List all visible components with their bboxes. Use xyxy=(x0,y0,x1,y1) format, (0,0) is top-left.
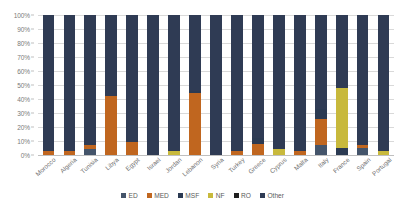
bar-column[interactable] xyxy=(210,15,222,155)
legend-swatch-icon xyxy=(234,193,239,198)
bar-segment[interactable] xyxy=(168,15,180,151)
bar-segment[interactable] xyxy=(231,15,243,151)
x-axis-label: Algeria xyxy=(59,156,78,174)
bar-segment[interactable] xyxy=(336,148,348,155)
bar-stack xyxy=(357,15,369,155)
bar-segment[interactable] xyxy=(273,15,285,149)
bar-segment[interactable] xyxy=(378,151,390,155)
bar-segment[interactable] xyxy=(64,151,76,155)
bar-segment[interactable] xyxy=(252,15,264,138)
bar-segment[interactable] xyxy=(294,15,306,151)
y-axis-tick-label: 10% xyxy=(17,138,30,145)
bar-segment[interactable] xyxy=(294,151,306,155)
bar-segment[interactable] xyxy=(168,151,180,155)
x-axis-label: Egypt xyxy=(124,156,141,172)
bar-segment[interactable] xyxy=(64,15,76,151)
bar-column[interactable] xyxy=(252,15,264,155)
bar-segment[interactable] xyxy=(273,149,285,155)
legend-item[interactable]: MED xyxy=(147,192,169,199)
bar-column[interactable] xyxy=(378,15,390,155)
bar-stack xyxy=(43,15,55,155)
y-axis-tick-mark xyxy=(31,141,34,142)
x-axis-label: Libya xyxy=(104,156,120,171)
bar-segment[interactable] xyxy=(105,15,117,96)
bar-column[interactable] xyxy=(43,15,55,155)
bar-column[interactable] xyxy=(105,15,117,155)
x-axis-label: Cyprus xyxy=(268,156,288,175)
legend-label: RO xyxy=(241,192,251,199)
x-axis-label: Turkey xyxy=(227,156,246,174)
bar-column[interactable] xyxy=(273,15,285,155)
bar-segment[interactable] xyxy=(231,151,243,155)
y-axis: 0%10%20%30%40%50%60%70%80%90%100% xyxy=(0,15,34,155)
legend-swatch-icon xyxy=(121,193,126,198)
y-axis-tick-label: 0% xyxy=(21,152,30,159)
legend-item[interactable]: Other xyxy=(260,192,284,199)
legend-item[interactable]: NF xyxy=(208,192,224,199)
bar-segment[interactable] xyxy=(357,15,369,145)
y-axis-tick-mark xyxy=(31,29,34,30)
bar-segment[interactable] xyxy=(210,15,222,155)
bar-segment[interactable] xyxy=(84,145,96,149)
bar-segment[interactable] xyxy=(315,145,327,155)
bar-stack xyxy=(105,15,117,155)
x-axis-label: Portugal xyxy=(370,156,392,177)
bar-column[interactable] xyxy=(294,15,306,155)
x-axis-label: Italy xyxy=(316,156,329,169)
bar-segment[interactable] xyxy=(336,88,348,148)
bar-segment[interactable] xyxy=(336,15,348,88)
bar-segment[interactable] xyxy=(189,15,201,91)
legend-swatch-icon xyxy=(260,193,265,198)
bar-segment[interactable] xyxy=(315,119,327,146)
y-axis-tick-label: 50% xyxy=(17,82,30,89)
bar-stack xyxy=(231,15,243,155)
bar-segment[interactable] xyxy=(252,138,264,144)
bar-segment[interactable] xyxy=(43,151,55,155)
legend-item[interactable]: RO xyxy=(234,192,251,199)
bar-column[interactable] xyxy=(357,15,369,155)
bar-segment[interactable] xyxy=(357,145,369,148)
bar-segment[interactable] xyxy=(189,91,201,94)
bar-column[interactable] xyxy=(231,15,243,155)
bar-segment[interactable] xyxy=(126,15,138,142)
bar-segment[interactable] xyxy=(147,15,159,155)
bar-segment[interactable] xyxy=(252,144,264,155)
plot-area xyxy=(38,15,394,155)
bar-stack xyxy=(273,15,285,155)
bar-column[interactable] xyxy=(64,15,76,155)
bar-segment[interactable] xyxy=(315,15,327,109)
y-axis-tick-mark xyxy=(31,85,34,86)
bar-segment[interactable] xyxy=(105,96,117,155)
y-axis-tick-mark xyxy=(31,15,34,16)
bar-segment[interactable] xyxy=(43,15,55,151)
bar-segment[interactable] xyxy=(378,15,390,151)
bar-stack xyxy=(336,15,348,155)
legend-label: MED xyxy=(154,192,169,199)
y-axis-tick-mark xyxy=(31,99,34,100)
y-axis-tick-label: 60% xyxy=(17,68,30,75)
bar-segment[interactable] xyxy=(126,142,138,155)
bar-segment[interactable] xyxy=(84,15,96,145)
y-axis-tick-label: 40% xyxy=(17,96,30,103)
bar-column[interactable] xyxy=(336,15,348,155)
bar-column[interactable] xyxy=(84,15,96,155)
bar-column[interactable] xyxy=(147,15,159,155)
legend-item[interactable]: MSF xyxy=(178,192,199,199)
bar-column[interactable] xyxy=(168,15,180,155)
legend-label: Other xyxy=(267,192,284,199)
bar-segment[interactable] xyxy=(189,93,201,155)
y-axis-tick-mark xyxy=(31,57,34,58)
x-axis-label: Israel xyxy=(146,156,162,172)
bar-segment[interactable] xyxy=(315,109,327,119)
bar-stack xyxy=(210,15,222,155)
y-axis-tick-label: 100% xyxy=(14,12,30,19)
bar-segment[interactable] xyxy=(84,149,96,155)
legend-item[interactable]: ED xyxy=(121,192,138,199)
bar-segment[interactable] xyxy=(357,148,369,155)
y-axis-tick-mark xyxy=(31,155,34,156)
bar-column[interactable] xyxy=(315,15,327,155)
bar-stack xyxy=(189,15,201,155)
bar-column[interactable] xyxy=(189,15,201,155)
y-axis-tick-mark xyxy=(31,43,34,44)
bar-column[interactable] xyxy=(126,15,138,155)
